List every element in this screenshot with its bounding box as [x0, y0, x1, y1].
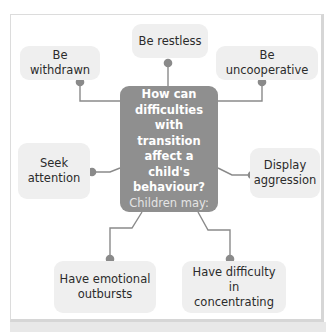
center-question-line: affect a child's	[123, 149, 215, 180]
node-label-line: Seek	[40, 156, 68, 171]
connector-dot	[164, 59, 173, 68]
center-subtitle: Children may:	[129, 196, 209, 212]
center-question-line: difficulties	[135, 103, 203, 119]
node-label: Be withdrawn	[24, 48, 96, 78]
node-be-withdrawn: Be withdrawn	[20, 46, 100, 80]
center-question-line: How can	[142, 87, 197, 103]
node-label-line: attention	[28, 171, 80, 186]
node-label: Be uncooperative	[220, 48, 314, 78]
node-be-restless: Be restless	[132, 24, 208, 58]
node-have-difficulty-concentrating: Have difficulty in concentrating	[182, 261, 286, 313]
node-label-line: Have difficulty in	[186, 265, 282, 295]
center-question-box: How can difficulties with transition aff…	[120, 86, 218, 212]
node-label-line: concentrating	[194, 295, 274, 310]
node-display-aggression: Display aggression	[250, 148, 320, 198]
node-have-emotional-outbursts: Have emotional outbursts	[54, 261, 156, 313]
center-question-line: behaviour?	[133, 180, 205, 196]
node-label-line: aggression	[254, 173, 317, 188]
node-label-line: outbursts	[78, 287, 133, 302]
node-label-line: Display	[264, 158, 306, 173]
node-label: Be restless	[139, 34, 202, 49]
node-seek-attention: Seek attention	[18, 143, 90, 199]
center-question-line: with transition	[123, 118, 215, 149]
node-label-line: Have emotional	[60, 272, 151, 287]
node-be-uncooperative: Be uncooperative	[216, 46, 318, 80]
